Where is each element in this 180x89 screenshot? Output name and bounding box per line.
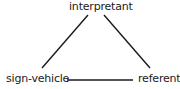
node-interpretant: interpretant bbox=[69, 1, 133, 13]
node-sign-vehicle: sign-vehicle bbox=[6, 73, 69, 85]
edge-interpretant-sign-vehicle bbox=[42, 15, 88, 68]
semiotic-triangle-diagram: interpretant sign-vehicle referent bbox=[0, 0, 180, 89]
edge-interpretant-referent bbox=[104, 15, 150, 68]
node-referent: referent bbox=[138, 73, 180, 85]
